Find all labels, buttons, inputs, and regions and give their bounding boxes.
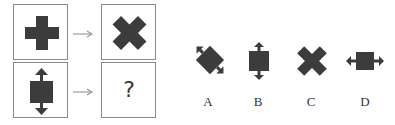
option-c-label[interactable]: C	[301, 94, 321, 110]
source-box-row1	[13, 4, 68, 60]
transform-arrow-row1	[72, 29, 94, 39]
option-c-x-cross-icon[interactable]	[292, 41, 332, 81]
x-cross-icon	[102, 5, 157, 61]
option-b-label[interactable]: B	[248, 94, 268, 110]
option-a-label[interactable]: A	[198, 94, 218, 110]
plus-cross-icon	[14, 5, 69, 61]
square-vertical-double-arrow-icon	[14, 63, 69, 119]
option-a-diagonal-arrow-square-icon[interactable]	[192, 42, 228, 78]
option-d-label[interactable]: D	[355, 94, 375, 110]
transform-arrow-row2	[72, 87, 94, 97]
source-box-row2	[13, 62, 68, 118]
answer-box-row2: ?	[101, 62, 156, 118]
option-d-horizontal-arrow-square-icon[interactable]	[345, 49, 385, 73]
question-mark: ?	[102, 77, 156, 102]
option-b-vertical-arrow-square-icon[interactable]	[244, 41, 274, 81]
target-box-row1	[101, 4, 156, 60]
